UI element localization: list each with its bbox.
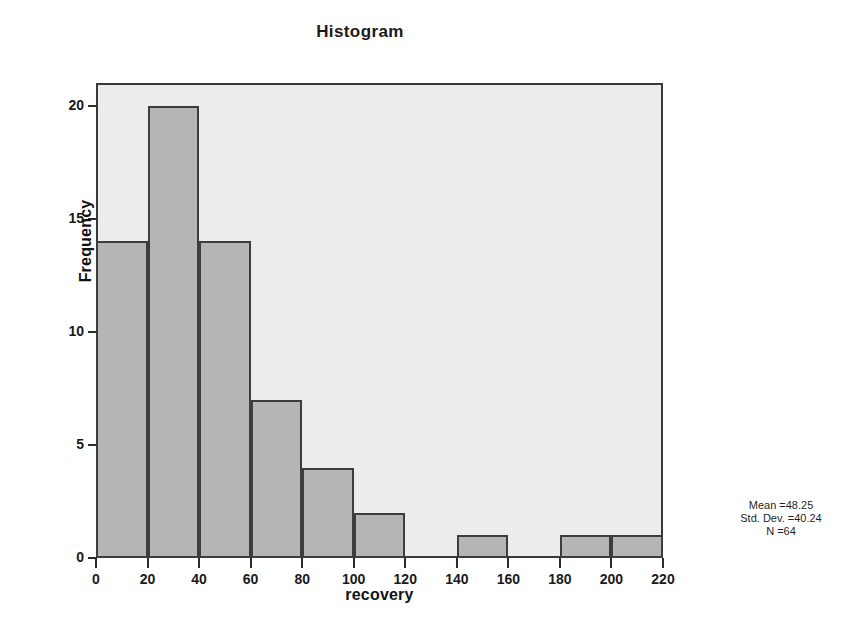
- y-tick-mark: [88, 444, 97, 446]
- y-tick-mark: [88, 331, 97, 333]
- stat-mean: Mean =48.25: [706, 499, 856, 512]
- x-tick-label: 20: [123, 571, 173, 587]
- x-tick-label: 100: [329, 571, 379, 587]
- histogram-bar: [560, 535, 612, 558]
- x-tick-mark: [662, 558, 664, 568]
- x-tick-mark: [559, 558, 561, 568]
- histogram-bar: [96, 241, 148, 558]
- x-tick-label: 160: [483, 571, 533, 587]
- stat-n: N =64: [706, 525, 856, 538]
- y-axis-title: Frequency: [77, 151, 95, 331]
- histogram-bar: [302, 468, 354, 558]
- histogram-bar: [611, 535, 663, 558]
- y-tick-label: 20: [44, 97, 84, 113]
- x-tick-label: 0: [71, 571, 121, 587]
- x-tick-mark: [353, 558, 355, 568]
- histogram-bar: [457, 535, 509, 558]
- histogram-bar: [251, 400, 303, 558]
- x-tick-mark: [198, 558, 200, 568]
- x-tick-label: 80: [277, 571, 327, 587]
- histogram-bar: [354, 513, 406, 558]
- x-tick-label: 120: [380, 571, 430, 587]
- x-tick-mark: [507, 558, 509, 568]
- y-tick-mark: [88, 105, 97, 107]
- x-tick-label: 60: [226, 571, 276, 587]
- x-tick-label: 200: [586, 571, 636, 587]
- x-axis-title: recovery: [96, 586, 663, 604]
- x-tick-label: 40: [174, 571, 224, 587]
- x-tick-mark: [147, 558, 149, 568]
- histogram-bar: [199, 241, 251, 558]
- histogram-chart: Histogram 05101520 Frequency 02040608010…: [0, 0, 865, 622]
- x-tick-mark: [404, 558, 406, 568]
- x-tick-label: 220: [638, 571, 688, 587]
- x-tick-mark: [95, 558, 97, 568]
- y-tick-label: 5: [44, 436, 84, 452]
- histogram-bar: [148, 106, 200, 558]
- histogram-bars: [96, 83, 663, 558]
- x-tick-label: 180: [535, 571, 585, 587]
- x-tick-mark: [456, 558, 458, 568]
- stat-std-dev: Std. Dev. =40.24: [706, 512, 856, 525]
- x-tick-mark: [250, 558, 252, 568]
- statistics-annotation: Mean =48.25 Std. Dev. =40.24 N =64: [706, 499, 856, 538]
- x-tick-mark: [301, 558, 303, 568]
- y-tick-label: 0: [44, 549, 84, 565]
- chart-title: Histogram: [0, 22, 720, 42]
- x-tick-mark: [610, 558, 612, 568]
- x-tick-label: 140: [432, 571, 482, 587]
